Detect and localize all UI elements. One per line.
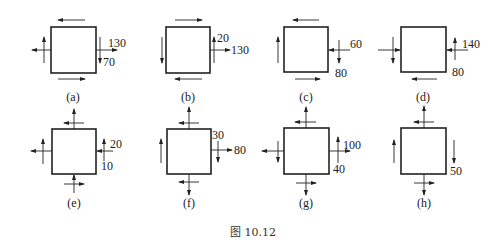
stress-element-figure: 130 70 (a) 20 130 (b) 60 80 (c) 140 80 [0, 0, 503, 247]
element-c: 60 80 (c) [278, 20, 362, 104]
value-sigma: 60 [350, 37, 362, 51]
element-label: (g) [299, 196, 313, 210]
element-e-square [52, 129, 96, 174]
value-sigma: 130 [108, 36, 126, 50]
element-b-square [166, 27, 210, 73]
value-tau: 40 [333, 162, 345, 176]
element-b: 20 130 (b) [162, 20, 249, 104]
value-sigma: 100 [343, 138, 361, 152]
element-e: 20 10 (e) [31, 109, 122, 210]
element-h: 50 (h) [394, 106, 462, 210]
element-g-square [284, 128, 329, 174]
element-f: 30 80 (f) [161, 107, 246, 210]
value-sigma: 140 [462, 37, 480, 51]
element-g: 100 40 (g) [262, 107, 361, 210]
element-label: (a) [66, 90, 79, 104]
element-a-square [51, 27, 96, 73]
value-tau: 30 [212, 128, 224, 142]
figure-caption: 图 10.12 [230, 226, 276, 239]
value-tau: 20 [110, 137, 122, 151]
element-a: 130 70 (a) [32, 20, 126, 104]
element-label: (c) [299, 90, 312, 104]
element-label: (d) [416, 90, 430, 104]
value-tau: 80 [452, 65, 464, 79]
value-tau: 70 [103, 55, 115, 69]
element-f-square [167, 129, 211, 174]
value-tau: 20 [217, 31, 229, 45]
value-sigma: 130 [231, 43, 249, 57]
value-tau: 50 [450, 164, 462, 178]
value-sigma: 80 [234, 143, 246, 157]
element-d: 140 80 (d) [378, 27, 480, 104]
element-h-square [401, 128, 446, 174]
element-d-square [401, 27, 446, 72]
value-sigma: 10 [101, 159, 113, 173]
value-tau: 80 [335, 66, 347, 80]
element-label: (f) [183, 196, 195, 210]
element-c-square [284, 27, 328, 72]
element-label: (e) [67, 196, 80, 210]
element-label: (h) [417, 196, 431, 210]
element-label: (b) [181, 90, 195, 104]
